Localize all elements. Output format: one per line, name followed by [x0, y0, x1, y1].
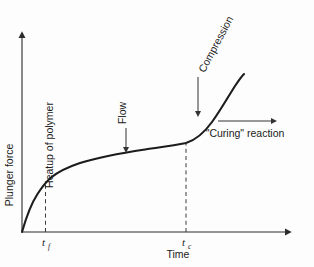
- tick-label-tc-base: t: [182, 236, 186, 248]
- annotation-heatup-label: Heatup of polymer: [43, 102, 55, 188]
- plunger-force-curve: [22, 74, 244, 232]
- plunger-force-vs-time-chart: Plunger force Time t f t c Heatup of pol…: [0, 0, 314, 267]
- tick-label-tf-base: t: [42, 236, 46, 248]
- tick-label-tc-subscript: c: [188, 242, 192, 251]
- annotation-compression-label: Compression: [196, 14, 236, 74]
- y-axis-label: Plunger force: [3, 144, 15, 207]
- figure-container: Plunger force Time t f t c Heatup of pol…: [0, 0, 314, 267]
- x-axis-label: Time: [167, 248, 190, 260]
- annotation-curing-label: "Curing" reaction: [206, 127, 285, 139]
- annotation-flow-label: Flow: [116, 101, 128, 124]
- tick-label-tf-subscript: f: [48, 242, 51, 251]
- tick-label-tf: t f: [42, 236, 51, 251]
